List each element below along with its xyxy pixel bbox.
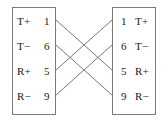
left-pin-6-number: 6 — [44, 39, 50, 53]
left-pin-9-signal: R− — [17, 89, 31, 103]
left-pin-5-signal: R+ — [17, 64, 31, 78]
right-pin-6-number: 6 — [121, 39, 127, 53]
right-connector: 1 T+ 6 T− 5 R+ 9 R− — [112, 7, 156, 115]
left-pin-1-number: 1 — [44, 14, 50, 28]
right-pin-1-number: 1 — [121, 14, 127, 28]
right-pin-9-number: 9 — [121, 89, 127, 103]
left-pin-5-number: 5 — [44, 64, 50, 78]
right-pin-1-signal: T+ — [135, 14, 148, 28]
right-pin-5-number: 5 — [121, 64, 127, 78]
right-pin-9-signal: R− — [135, 89, 149, 103]
left-pin-9-number: 9 — [44, 89, 50, 103]
left-pin-6-signal: T− — [17, 39, 30, 53]
left-pin-1-signal: T+ — [17, 14, 30, 28]
right-pin-6-signal: T− — [135, 39, 148, 53]
left-connector: T+ 1 T− 6 R+ 5 R− 9 — [12, 7, 56, 115]
crossover-pinout-diagram: T+ 1 T− 6 R+ 5 R− 9 1 T+ 6 T− 5 R+ — [0, 0, 168, 124]
right-pin-5-signal: R+ — [135, 64, 149, 78]
